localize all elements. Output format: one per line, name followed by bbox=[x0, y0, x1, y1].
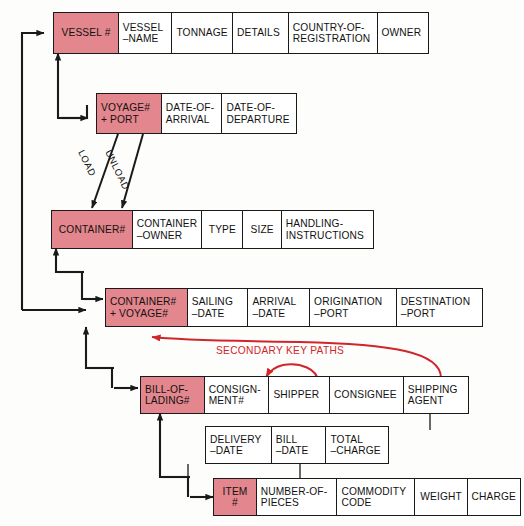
field-bill-of-lading-number[interactable]: BILL-OF- LADING# bbox=[140, 376, 205, 414]
field-item-number[interactable]: ITEM # bbox=[213, 478, 257, 516]
field-delivery-date[interactable]: DELIVERY –DATE bbox=[205, 426, 272, 464]
field-size[interactable]: SIZE bbox=[242, 210, 282, 249]
record-bill-of-lading: BILL-OF- LADING# CONSIGN- MENT# SHIPPER … bbox=[140, 376, 469, 414]
field-bill-date[interactable]: BILL –DATE bbox=[271, 426, 327, 464]
record-container-voyage: CONTAINER# + VOYAGE# SAILING –DATE ARRIV… bbox=[105, 288, 483, 327]
field-details[interactable]: DETAILS bbox=[232, 12, 289, 54]
field-owner[interactable]: OWNER bbox=[377, 12, 429, 54]
field-arrival-date[interactable]: ARRIVAL –DATE bbox=[247, 288, 310, 327]
field-voyage-number-port[interactable]: VOYAGE# + PORT bbox=[96, 93, 162, 134]
field-date-of-arrival[interactable]: DATE-OF- ARRIVAL bbox=[161, 93, 223, 134]
record-vessel: VESSEL # VESSEL –NAME TONNAGE DETAILS CO… bbox=[53, 12, 429, 54]
record-container: CONTAINER# CONTAINER –OWNER TYPE SIZE HA… bbox=[51, 210, 374, 249]
field-container-owner[interactable]: CONTAINER –OWNER bbox=[132, 210, 203, 249]
field-country-of-registration[interactable]: COUNTRY-OF- REGISTRATION bbox=[288, 12, 378, 54]
secondary-key-paths-label: SECONDARY KEY PATHS bbox=[216, 345, 344, 356]
field-charge[interactable]: CHARGE bbox=[467, 478, 521, 516]
field-handling-instructions[interactable]: HANDLING- INSTRUCTIONS bbox=[281, 210, 374, 249]
field-consignee[interactable]: CONSIGNEE bbox=[329, 376, 404, 414]
field-shipping-agent[interactable]: SHIPPING AGENT bbox=[403, 376, 469, 414]
field-container-number-voyage-number[interactable]: CONTAINER# + VOYAGE# bbox=[105, 288, 188, 327]
field-tonnage[interactable]: TONNAGE bbox=[171, 12, 233, 54]
field-type[interactable]: TYPE bbox=[201, 210, 243, 249]
record-voyage-port: VOYAGE# + PORT DATE-OF- ARRIVAL DATE-OF-… bbox=[96, 93, 297, 134]
field-shipper[interactable]: SHIPPER bbox=[268, 376, 330, 414]
field-total-charge[interactable]: TOTAL –CHARGE bbox=[325, 426, 389, 464]
load-label: LOAD bbox=[76, 148, 98, 178]
field-vessel-name[interactable]: VESSEL –NAME bbox=[118, 12, 173, 54]
field-consignment-number[interactable]: CONSIGN- MENT# bbox=[204, 376, 270, 414]
field-sailing-date[interactable]: SAILING –DATE bbox=[187, 288, 249, 327]
field-destination-port[interactable]: DESTINATION –PORT bbox=[396, 288, 483, 327]
field-origination-port[interactable]: ORIGINATION –PORT bbox=[309, 288, 397, 327]
field-commodity-code[interactable]: COMMODITY CODE bbox=[336, 478, 415, 516]
field-number-of-pieces[interactable]: NUMBER-OF- PIECES bbox=[256, 478, 338, 516]
diagram-canvas: VESSEL # VESSEL –NAME TONNAGE DETAILS CO… bbox=[0, 0, 524, 526]
record-bill-of-lading-continued: DELIVERY –DATE BILL –DATE TOTAL –CHARGE bbox=[205, 426, 389, 464]
field-container-number[interactable]: CONTAINER# bbox=[51, 210, 133, 249]
field-weight[interactable]: WEIGHT bbox=[414, 478, 468, 516]
record-item: ITEM # NUMBER-OF- PIECES COMMODITY CODE … bbox=[213, 478, 521, 516]
field-date-of-departure[interactable]: DATE-OF- DEPARTURE bbox=[221, 93, 297, 134]
field-vessel-number[interactable]: VESSEL # bbox=[53, 12, 119, 54]
unload-label: UNLOAD bbox=[103, 148, 132, 191]
